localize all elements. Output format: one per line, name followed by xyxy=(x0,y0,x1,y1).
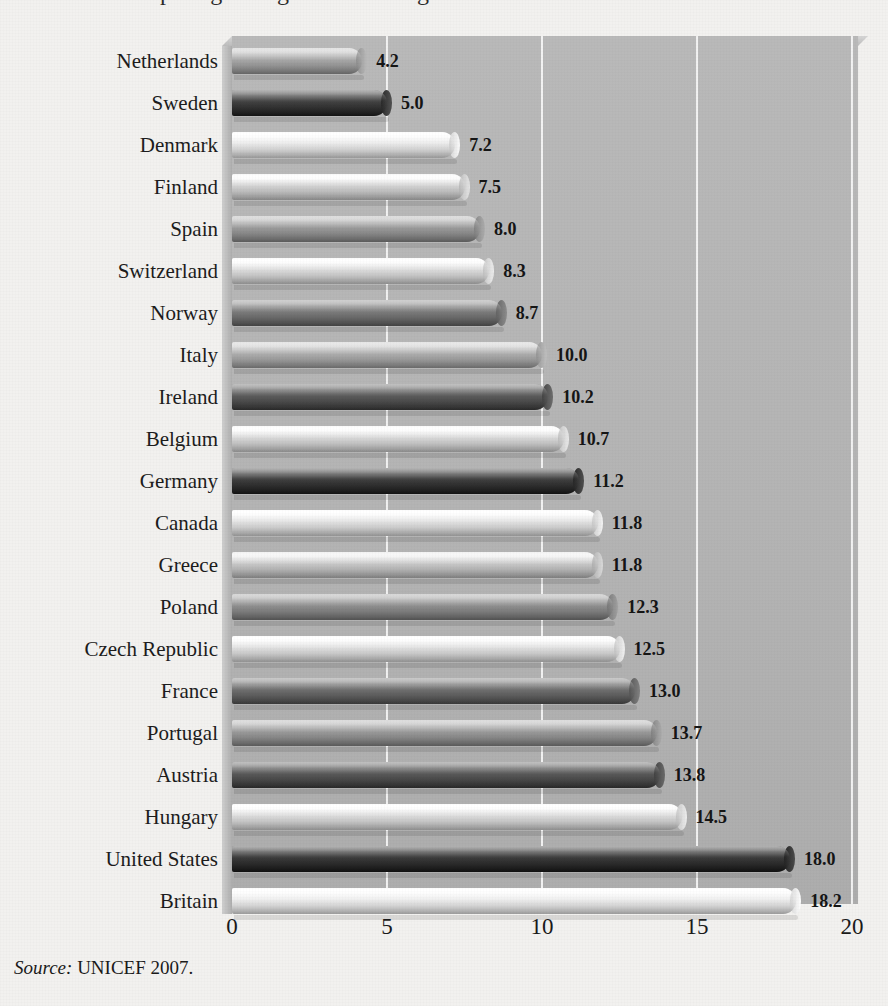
value-label: 11.8 xyxy=(612,502,643,544)
value-label: 13.0 xyxy=(649,670,681,712)
bar-austria[interactable] xyxy=(232,762,660,788)
bar-italy[interactable] xyxy=(232,342,542,368)
category-label-poland: Poland xyxy=(0,586,218,628)
bar-sweden[interactable] xyxy=(232,90,387,116)
bar-germany[interactable] xyxy=(232,468,579,494)
bar-end-cap xyxy=(629,678,640,704)
bar-row: Denmark7.2 xyxy=(0,124,888,166)
value-label: 13.7 xyxy=(671,712,703,754)
value-label: 10.0 xyxy=(556,334,588,376)
bar-end-cap xyxy=(592,552,603,578)
bar-end-cap xyxy=(607,594,618,620)
x-axis: 05101520 xyxy=(0,914,888,948)
category-label-ireland: Ireland xyxy=(0,376,218,418)
bar-france[interactable] xyxy=(232,678,635,704)
bar-row: Ireland10.2 xyxy=(0,376,888,418)
bar-end-cap xyxy=(614,636,625,662)
bar-greece[interactable] xyxy=(232,552,598,578)
bar-shadow xyxy=(234,369,544,374)
bar-body xyxy=(232,804,682,830)
bar-row: Italy10.0 xyxy=(0,334,888,376)
value-label: 10.7 xyxy=(578,418,610,460)
value-label: 8.0 xyxy=(494,208,517,250)
value-label: 11.2 xyxy=(593,460,624,502)
bar-norway[interactable] xyxy=(232,300,502,326)
category-label-switzerland: Switzerland xyxy=(0,250,218,292)
bar-row: Austria13.8 xyxy=(0,754,888,796)
x-tick-label-0: 0 xyxy=(202,914,262,940)
bar-spain[interactable] xyxy=(232,216,480,242)
bar-end-cap xyxy=(651,720,662,746)
bar-row: Canada11.8 xyxy=(0,502,888,544)
bar-end-cap xyxy=(459,174,470,200)
category-label-canada: Canada xyxy=(0,502,218,544)
value-label: 8.7 xyxy=(516,292,539,334)
category-label-finland: Finland xyxy=(0,166,218,208)
category-label-czech-republic: Czech Republic xyxy=(0,628,218,670)
bar-portugal[interactable] xyxy=(232,720,657,746)
value-label: 5.0 xyxy=(401,82,424,124)
bar-row: Netherlands4.2 xyxy=(0,40,888,82)
bar-row: Spain8.0 xyxy=(0,208,888,250)
bar-shadow xyxy=(234,831,684,836)
x-tick-label-15: 15 xyxy=(667,914,727,940)
bar-row: Switzerland8.3 xyxy=(0,250,888,292)
bar-body xyxy=(232,888,796,914)
bar-czech-republic[interactable] xyxy=(232,636,620,662)
bar-body xyxy=(232,48,362,74)
bar-end-cap xyxy=(381,90,392,116)
bar-shadow xyxy=(234,873,792,878)
source-value: UNICEF 2007. xyxy=(77,957,193,978)
bar-netherlands[interactable] xyxy=(232,48,362,74)
bar-canada[interactable] xyxy=(232,510,598,536)
bar-poland[interactable] xyxy=(232,594,613,620)
category-label-hungary: Hungary xyxy=(0,796,218,838)
bar-hungary[interactable] xyxy=(232,804,682,830)
category-label-greece: Greece xyxy=(0,544,218,586)
category-label-spain: Spain xyxy=(0,208,218,250)
bar-ireland[interactable] xyxy=(232,384,548,410)
bar-body xyxy=(232,90,387,116)
bar-shadow xyxy=(234,621,615,626)
bar-body xyxy=(232,384,548,410)
bar-body xyxy=(232,552,598,578)
bar-row: United States18.0 xyxy=(0,838,888,880)
bar-denmark[interactable] xyxy=(232,132,455,158)
value-label: 8.3 xyxy=(503,250,526,292)
category-label-sweden: Sweden xyxy=(0,82,218,124)
value-label: 10.2 xyxy=(562,376,594,418)
bar-belgium[interactable] xyxy=(232,426,564,452)
bar-united-states[interactable] xyxy=(232,846,790,872)
bar-end-cap xyxy=(654,762,665,788)
bar-row: Greece11.8 xyxy=(0,544,888,586)
bar-row: Hungary14.5 xyxy=(0,796,888,838)
bar-end-cap xyxy=(573,468,584,494)
category-label-austria: Austria xyxy=(0,754,218,796)
bar-body xyxy=(232,678,635,704)
bar-body xyxy=(232,258,489,284)
bar-shadow xyxy=(234,117,389,122)
bar-shadow xyxy=(234,243,482,248)
bar-switzerland[interactable] xyxy=(232,258,489,284)
bar-shadow xyxy=(234,495,581,500)
bar-row: Portugal13.7 xyxy=(0,712,888,754)
bar-finland[interactable] xyxy=(232,174,465,200)
bar-end-cap xyxy=(474,216,485,242)
category-label-denmark: Denmark xyxy=(0,124,218,166)
figure-title-text: comparing a range of wellbeing measures … xyxy=(118,0,734,6)
bar-row: France13.0 xyxy=(0,670,888,712)
bar-shadow xyxy=(234,327,504,332)
value-label: 18.0 xyxy=(804,838,836,880)
bar-shadow xyxy=(234,453,566,458)
bar-body xyxy=(232,216,480,242)
bar-shadow xyxy=(234,159,457,164)
bar-shadow xyxy=(234,705,637,710)
bar-body xyxy=(232,342,542,368)
category-label-united-states: United States xyxy=(0,838,218,880)
bar-britain[interactable] xyxy=(232,888,796,914)
category-label-netherlands: Netherlands xyxy=(0,40,218,82)
bar-row: Sweden5.0 xyxy=(0,82,888,124)
value-label: 13.8 xyxy=(674,754,706,796)
bar-end-cap xyxy=(496,300,507,326)
bar-chart: Netherlands4.2Sweden5.0Denmark7.2Finland… xyxy=(0,14,888,914)
